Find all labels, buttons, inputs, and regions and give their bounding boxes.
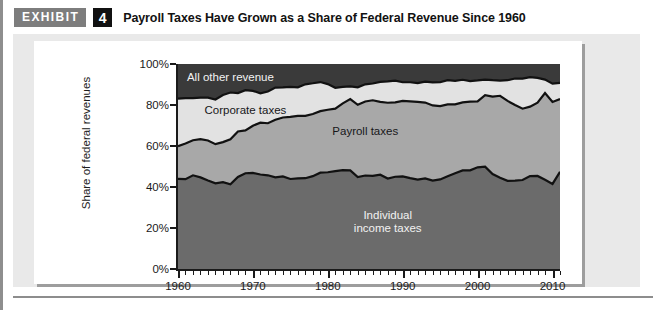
x-tick-mark-minor <box>358 271 359 275</box>
y-axis-title: Share of federal revenues <box>80 53 92 233</box>
x-tick-mark-minor <box>275 271 276 275</box>
x-tick-mark-minor <box>560 271 561 275</box>
x-tick-mark-minor <box>508 271 509 275</box>
x-tick-mark-minor <box>395 271 396 275</box>
x-tick-label: 1990 <box>390 280 416 292</box>
x-tick-mark-major <box>478 271 480 278</box>
y-tick-label: 40% <box>146 181 169 193</box>
x-tick-mark-minor <box>283 271 284 275</box>
x-tick-mark-major <box>253 271 255 278</box>
x-tick-mark-minor <box>515 271 516 275</box>
x-tick-mark-minor <box>448 271 449 275</box>
x-tick-label: 1970 <box>240 280 266 292</box>
x-tick-mark-minor <box>433 271 434 275</box>
x-tick-mark-minor <box>260 271 261 275</box>
x-tick-mark-minor <box>320 271 321 275</box>
x-tick-mark-major <box>403 271 405 278</box>
x-tick-mark-minor <box>208 271 209 275</box>
x-tick-mark-minor <box>538 271 539 275</box>
exhibit-header: EXHIBIT 4 Payroll Taxes Have Grown as a … <box>14 7 526 28</box>
x-tick-mark-minor <box>425 271 426 275</box>
x-tick-mark-minor <box>493 271 494 275</box>
x-tick-mark-minor <box>530 271 531 275</box>
x-tick-mark-major <box>553 271 555 278</box>
x-tick-mark-minor <box>238 271 239 275</box>
x-tick-mark-minor <box>350 271 351 275</box>
x-tick-mark-minor <box>290 271 291 275</box>
x-tick-mark-minor <box>485 271 486 275</box>
x-tick-mark-minor <box>215 271 216 275</box>
x-tick-mark-minor <box>373 271 374 275</box>
x-tick-label: 2010 <box>540 280 566 292</box>
x-tick-mark-minor <box>223 271 224 275</box>
x-tick-mark-minor <box>335 271 336 275</box>
y-tick-label: 80% <box>146 99 169 111</box>
x-tick-mark-minor <box>380 271 381 275</box>
x-tick-mark-minor <box>193 271 194 275</box>
x-tick-mark-minor <box>500 271 501 275</box>
area-band <box>178 167 560 269</box>
x-tick-mark-major <box>328 271 330 278</box>
x-tick-mark-minor <box>343 271 344 275</box>
exhibit-badge: EXHIBIT <box>14 8 86 27</box>
x-tick-mark-major <box>178 271 180 278</box>
exhibit-number-box: 4 <box>93 8 112 27</box>
y-tick-label: 20% <box>146 222 169 234</box>
x-tick-mark-minor <box>298 271 299 275</box>
x-tick-mark-minor <box>268 271 269 275</box>
x-tick-mark-minor <box>388 271 389 275</box>
x-tick-mark-minor <box>410 271 411 275</box>
chart-card: Share of federal revenues 0%20%40%60%80%… <box>34 41 582 284</box>
y-tick-label: 100% <box>140 58 169 70</box>
stacked-area-chart <box>178 64 560 269</box>
x-tick-mark-minor <box>313 271 314 275</box>
x-tick-mark-minor <box>185 271 186 275</box>
x-tick-label: 1980 <box>315 280 341 292</box>
x-tick-mark-minor <box>523 271 524 275</box>
x-tick-mark-minor <box>305 271 306 275</box>
x-tick-label: 1960 <box>165 280 191 292</box>
chart-panel: Share of federal revenues 0%20%40%60%80%… <box>13 34 640 287</box>
x-tick-mark-minor <box>463 271 464 275</box>
x-tick-mark-minor <box>418 271 419 275</box>
x-tick-mark-minor <box>455 271 456 275</box>
x-tick-mark-minor <box>470 271 471 275</box>
page-spine <box>0 0 3 310</box>
x-tick-mark-minor <box>440 271 441 275</box>
page-bottom-rule <box>13 296 653 298</box>
page-title: Payroll Taxes Have Grown as a Share of F… <box>123 11 526 25</box>
y-tick-label: 0% <box>152 263 169 275</box>
x-tick-mark-minor <box>245 271 246 275</box>
x-tick-label: 2000 <box>465 280 491 292</box>
plot-area: 0%20%40%60%80%100% 196019701980199020002… <box>176 64 560 271</box>
x-tick-mark-minor <box>545 271 546 275</box>
x-tick-mark-minor <box>230 271 231 275</box>
y-axis-line <box>176 64 178 271</box>
x-tick-mark-minor <box>365 271 366 275</box>
y-tick-label: 60% <box>146 140 169 152</box>
x-tick-mark-minor <box>200 271 201 275</box>
x-axis-line <box>176 269 560 271</box>
